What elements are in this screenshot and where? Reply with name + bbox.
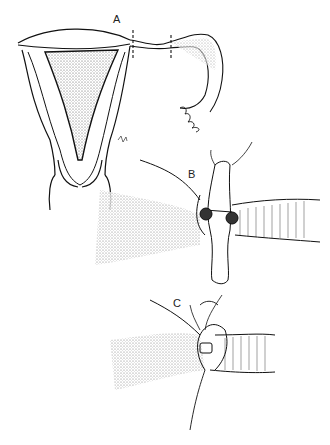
fallopian-tube-drawing	[118, 30, 223, 142]
illustration	[0, 0, 330, 445]
anastomosis-drawing-c	[110, 295, 275, 430]
uterus-drawing	[18, 29, 130, 210]
panel-label-b: B	[188, 168, 195, 180]
panel-label-c: C	[173, 297, 181, 309]
panel-label-a: A	[113, 13, 120, 25]
anastomosis-drawing-b	[95, 142, 320, 284]
